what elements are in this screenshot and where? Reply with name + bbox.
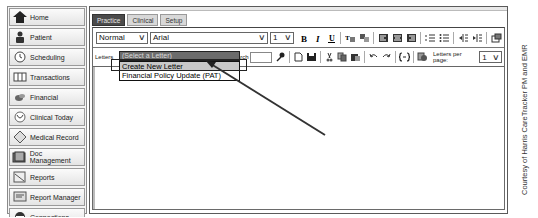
align-center-button[interactable]	[390, 32, 404, 44]
align-right-button[interactable]	[404, 32, 418, 44]
table-button[interactable]	[489, 32, 503, 44]
sidebar-item-doc-management[interactable]: Doc Management	[9, 148, 85, 166]
sidebar-item-financial[interactable]: Financial	[9, 88, 85, 106]
report-manager-icon	[12, 191, 27, 203]
sidebar-item-label: Patient	[30, 34, 52, 41]
svg-text:U: U	[329, 34, 335, 43]
toolbar-divider	[486, 32, 487, 44]
option-create-new-letter[interactable]: Create New Letter	[120, 62, 239, 71]
undo-button[interactable]	[367, 51, 380, 63]
sidebar-item-label: Transactions	[30, 74, 70, 81]
tab-bar: Practice Clinical Setup	[92, 14, 187, 26]
new-document-button[interactable]	[292, 51, 305, 63]
svg-text:B: B	[301, 34, 307, 43]
sidebar-item-label: Scheduling	[30, 54, 65, 61]
save-button[interactable]	[305, 51, 318, 63]
underline-button[interactable]: U	[324, 32, 338, 44]
financial-icon	[12, 91, 27, 103]
main-frame: Practice Clinical Setup Normal∨ Arial∨ 1…	[89, 6, 508, 214]
sidebar-item-scheduling[interactable]: Scheduling	[9, 48, 85, 66]
sidebar-item-label: Home	[30, 14, 49, 21]
letters-label: Letters	[95, 54, 113, 60]
stethoscope-icon	[12, 111, 27, 123]
bold-button[interactable]: B	[296, 32, 310, 44]
home-icon	[12, 11, 27, 23]
spell-check-button[interactable]	[416, 51, 429, 63]
insert-field-button[interactable]	[398, 51, 411, 63]
indent-button[interactable]	[470, 32, 484, 44]
svg-text:I: I	[315, 34, 320, 43]
highlight-button[interactable]	[357, 32, 371, 44]
sidebar-item-transactions[interactable]: Transactions	[9, 68, 85, 86]
redo-button[interactable]	[380, 51, 393, 63]
cut-button[interactable]	[323, 51, 336, 63]
connections-icon	[12, 211, 27, 217]
reports-icon	[12, 171, 27, 183]
top-bar	[90, 7, 507, 11]
tab-clinical[interactable]: Clinical	[127, 14, 158, 26]
svg-text:T: T	[345, 34, 350, 42]
sidebar-item-label: Financial	[30, 94, 58, 101]
tab-setup[interactable]: Setup	[160, 14, 187, 26]
sidebar-item-label: Clinical Today	[30, 114, 73, 121]
bulleted-list-button[interactable]	[437, 32, 451, 44]
image-credit: Courtesy of Harris CareTracker PM and EM…	[520, 44, 529, 195]
numbered-list-button[interactable]	[423, 32, 437, 44]
transactions-icon	[12, 71, 27, 83]
folder-icon	[12, 151, 27, 163]
letter-dropdown-list: Create New Letter Financial Policy Updat…	[119, 61, 240, 81]
outdent-button[interactable]	[456, 32, 470, 44]
toolbar-divider	[340, 32, 341, 44]
search-icon[interactable]	[274, 51, 287, 63]
font-size-select[interactable]: 1∨	[270, 32, 294, 44]
toolbar-divider	[373, 32, 374, 44]
letters-per-page-select[interactable]: 1∨	[479, 51, 502, 63]
medical-record-icon	[12, 131, 27, 143]
clock-icon	[12, 51, 27, 63]
sidebar-item-patient[interactable]: Patient	[9, 28, 85, 46]
sidebar-item-clinical-today[interactable]: Clinical Today	[9, 108, 85, 126]
sidebar-item-label: Reports	[30, 174, 55, 181]
sidebar-item-medical-record[interactable]: Medical Record	[9, 128, 85, 146]
sidebar-item-label: Report Manager	[30, 194, 81, 201]
letters-panel: Normal∨ Arial∨ 1∨ B I U T	[92, 27, 505, 210]
text-color-button[interactable]: T	[343, 32, 357, 44]
toolbar-divider	[395, 51, 396, 63]
toolbar-divider	[413, 51, 414, 63]
chevron-down-icon: ∨	[284, 33, 292, 42]
toolbar-divider	[420, 32, 421, 44]
sidebar-item-report-manager[interactable]: Report Manager	[9, 188, 85, 206]
option-financial-policy-update[interactable]: Financial Policy Update (PAT)	[120, 71, 239, 80]
toolbar-divider	[364, 51, 365, 63]
font-select[interactable]: Arial∨	[150, 32, 268, 44]
chevron-down-icon: ∨	[138, 33, 146, 42]
chevron-down-icon: ∨	[492, 53, 500, 62]
format-toolbar: Normal∨ Arial∨ 1∨ B I U T	[93, 28, 504, 48]
sidebar-item-label: Medical Record	[30, 134, 79, 141]
letter-content-area[interactable]	[93, 67, 504, 209]
toolbar-divider	[320, 51, 321, 63]
align-left-button[interactable]	[376, 32, 390, 44]
letter-select[interactable]: (Select a Letter)	[119, 51, 240, 61]
paste-button[interactable]	[349, 51, 362, 63]
toolbar-divider	[289, 51, 290, 63]
sidebar-item-label: Doc Management	[30, 150, 84, 164]
toolbar-divider	[453, 32, 454, 44]
italic-button[interactable]: I	[310, 32, 324, 44]
sidebar-item-label: Connections	[30, 214, 69, 218]
style-select[interactable]: Normal∨	[96, 32, 148, 44]
tab-practice[interactable]: Practice	[92, 14, 125, 26]
copy-button[interactable]	[336, 51, 349, 63]
search-input[interactable]	[250, 52, 272, 63]
letters-per-page-label: Letters per page:	[433, 51, 475, 63]
patient-icon	[12, 31, 27, 43]
sidebar-item-reports[interactable]: Reports	[9, 168, 85, 186]
sidebar-item-home[interactable]: Home	[9, 8, 85, 26]
sidebar-nav: Home Patient Scheduling Transactions Fin…	[7, 6, 87, 214]
chevron-down-icon: ∨	[258, 33, 266, 42]
sidebar-item-connections[interactable]: Connections	[9, 208, 85, 217]
